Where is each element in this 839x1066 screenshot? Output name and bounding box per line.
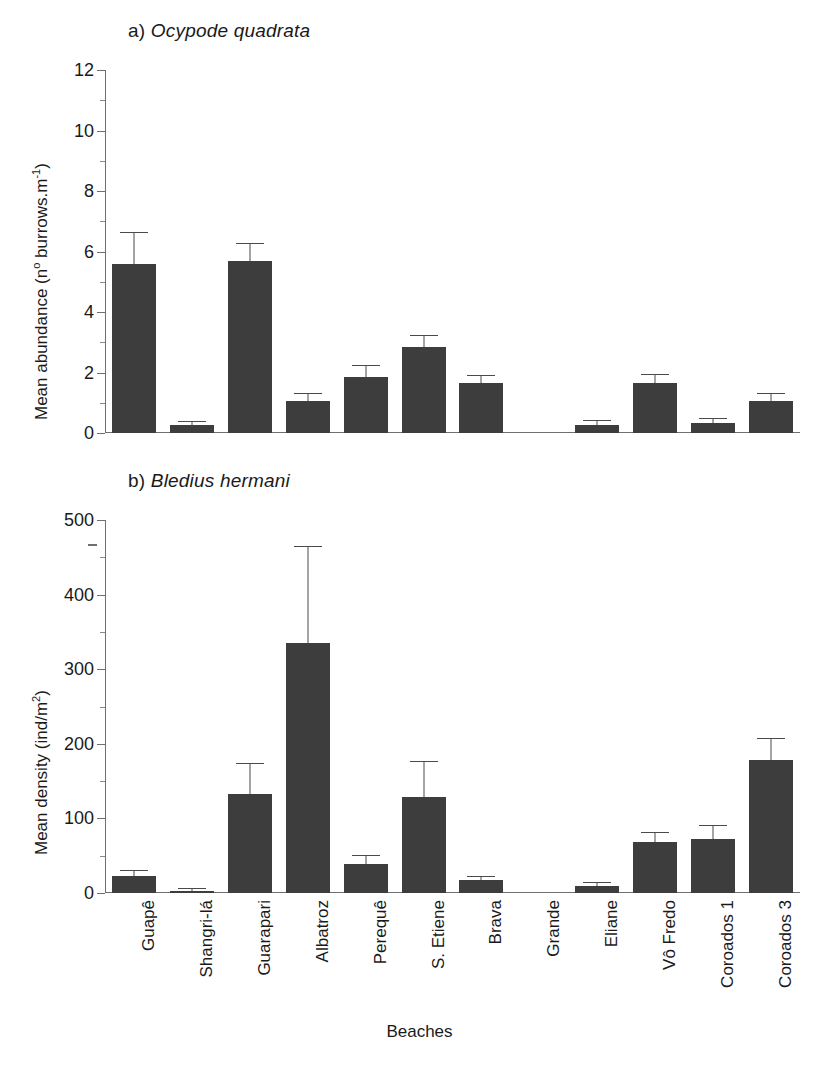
x-axis-category-text: Brava xyxy=(487,900,504,944)
error-bar-cap xyxy=(120,232,148,233)
bar xyxy=(749,760,793,893)
y-tick-label: 200 xyxy=(64,735,94,753)
figure-panel-group: a) Ocypode quadrata Mean abundance (no b… xyxy=(0,0,839,1066)
panel-a-title: a) Ocypode quadrata xyxy=(128,20,310,42)
y-tick-label: 300 xyxy=(64,660,94,678)
error-bar-cap xyxy=(699,825,727,826)
x-axis-category-label: Guarapari xyxy=(256,900,273,976)
y-tick-mark xyxy=(97,373,105,374)
bar xyxy=(459,383,503,433)
error-bar-line xyxy=(249,244,250,261)
x-axis-category-text: Eliane xyxy=(603,900,620,947)
bar xyxy=(633,842,677,893)
x-axis-category-text: Vô Fredo xyxy=(661,900,678,970)
y-tick-mark xyxy=(97,131,105,132)
y-tick-mark xyxy=(97,669,105,670)
y-tick-label: 2 xyxy=(84,364,94,382)
y-tick-label: 4 xyxy=(84,303,94,321)
x-axis-category-label: Vô Fredo xyxy=(661,900,678,970)
y-tick-mark xyxy=(97,818,105,819)
bar-group xyxy=(568,520,626,893)
x-axis-category-text: Shangri-lá xyxy=(198,900,215,978)
bar-group xyxy=(510,520,568,893)
error-bar-line xyxy=(249,764,250,794)
panel-b-title-prefix: b) xyxy=(128,470,151,491)
bar-group xyxy=(453,520,511,893)
y-tick-mark xyxy=(97,893,105,894)
error-bar-line xyxy=(481,877,482,880)
error-bar-line xyxy=(307,394,308,402)
error-bar-cap xyxy=(294,546,322,547)
error-bar-cap xyxy=(583,420,611,421)
bar-group xyxy=(626,520,684,893)
x-axis-category-label: Grande xyxy=(545,900,562,957)
error-bar-line xyxy=(771,394,772,402)
y-tick-label: 0 xyxy=(84,424,94,442)
bar-group xyxy=(568,70,626,433)
x-axis-category-text: Guapê xyxy=(140,900,157,951)
y-tick-label: 8 xyxy=(84,182,94,200)
bar-group xyxy=(105,70,163,433)
y-tick-label: 12 xyxy=(74,61,94,79)
error-bar-cap xyxy=(120,870,148,871)
error-bar-cap xyxy=(757,738,785,739)
error-bar-cap xyxy=(178,888,206,889)
bar xyxy=(749,401,793,433)
error-bar-line xyxy=(191,422,192,426)
bar-group xyxy=(626,70,684,433)
error-bar-line xyxy=(423,762,424,797)
panel-b-y-axis-title: Mean density (ind/m2) xyxy=(30,690,52,855)
bar-group xyxy=(337,70,395,433)
bar-group xyxy=(742,520,800,893)
x-axis-category-text: Grande xyxy=(545,900,562,957)
x-axis-category-label: Perequê xyxy=(372,900,389,964)
error-bar-cap xyxy=(236,243,264,244)
error-bar-cap xyxy=(467,375,495,376)
bar-group xyxy=(163,70,221,433)
error-bar-line xyxy=(365,856,366,864)
error-bar-cap xyxy=(641,374,669,375)
error-bar-line xyxy=(771,739,772,760)
bar xyxy=(402,797,446,893)
error-bar-cap xyxy=(757,393,785,394)
x-axis-category-label: Eliane xyxy=(603,900,620,947)
y-tick-label: 100 xyxy=(64,809,94,827)
x-axis-category-label: Coroados 3 xyxy=(777,900,794,988)
bar-group xyxy=(684,70,742,433)
bar-group xyxy=(279,520,337,893)
error-bar-cap xyxy=(410,761,438,762)
error-bar-cap xyxy=(178,421,206,422)
error-bar-line xyxy=(307,547,308,643)
bar xyxy=(112,264,156,433)
bar xyxy=(286,643,330,893)
x-axis-category-label: Albatroz xyxy=(314,900,331,962)
error-bar-line xyxy=(481,376,482,384)
error-bar-line xyxy=(597,421,598,425)
bar xyxy=(170,891,214,893)
bar xyxy=(691,839,735,893)
bar-group xyxy=(163,520,221,893)
x-axis-category-label: Brava xyxy=(487,900,504,944)
error-bar-line xyxy=(133,233,134,263)
bar xyxy=(575,886,619,893)
bar-group xyxy=(684,520,742,893)
x-axis-category-label: S. Etiene xyxy=(430,900,447,969)
error-bar-cap xyxy=(236,763,264,764)
panel-a-title-species: Ocypode quadrata xyxy=(151,20,311,41)
x-axis-category-label: Shangri-lá xyxy=(198,900,215,978)
panel-b-plot-area: 0100200300400500 xyxy=(105,520,800,893)
bar-group xyxy=(105,520,163,893)
error-bar-cap xyxy=(410,335,438,336)
y-tick-label: 500 xyxy=(64,511,94,529)
bar-group xyxy=(510,70,568,433)
bar xyxy=(575,425,619,433)
y-tick-label: 0 xyxy=(84,884,94,902)
panel-b-title: b) Bledius hermani xyxy=(128,470,290,492)
bar-group xyxy=(395,70,453,433)
y-tick-mark xyxy=(97,433,105,434)
error-bar-cap xyxy=(294,393,322,394)
y-tick-label: 400 xyxy=(64,586,94,604)
stray-tick-mark xyxy=(88,544,97,546)
error-bar-cap xyxy=(583,882,611,883)
bar-group xyxy=(221,70,279,433)
